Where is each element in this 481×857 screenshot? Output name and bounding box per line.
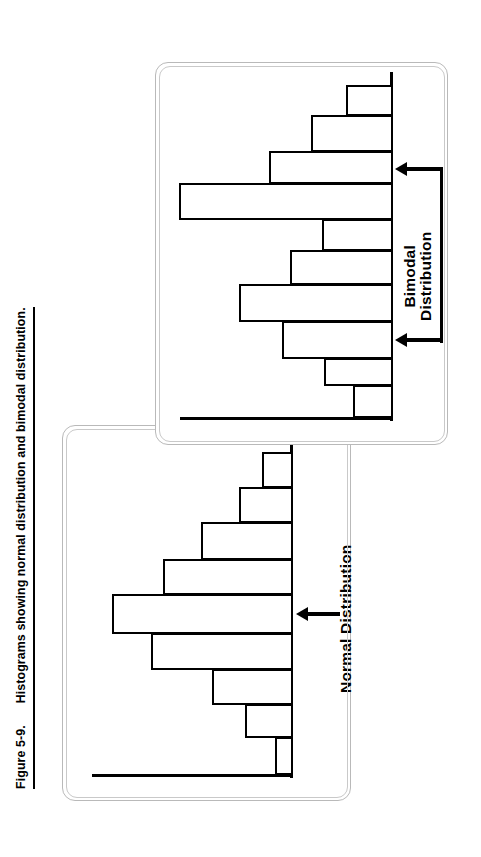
chart-normal-histogram: Normal Distribution [63, 426, 350, 800]
normal-arrow-shaft [306, 612, 340, 615]
panel-normal-distribution: Normal Distribution [62, 425, 351, 801]
bar-normal-8 [245, 704, 293, 738]
normal-distribution-label: Normal Distribution [338, 545, 354, 693]
bar-normal-6 [151, 633, 293, 670]
normal-arrow-head [296, 607, 308, 621]
bar-bimodal-6 [290, 250, 393, 285]
bimodal-arrow-lower-shaft [405, 338, 443, 341]
bimodal-arrow-lower-head [395, 333, 407, 347]
bimodal-label-line2: Distribution [417, 232, 434, 321]
normal-baseline-axis [92, 774, 293, 777]
bar-bimodal-3 [269, 151, 393, 184]
bar-normal-3 [201, 522, 293, 560]
figure-caption-rotor: Figure 5-9. Histograms showing normal di… [0, 69, 46, 789]
bar-bimodal-4 [179, 183, 393, 220]
bar-normal-1 [262, 452, 293, 488]
bar-bimodal-9 [324, 358, 393, 386]
bar-normal-5 [112, 594, 293, 634]
figure-number: Figure 5-9. [14, 725, 28, 789]
bar-normal-9 [275, 737, 293, 775]
bar-normal-4 [163, 559, 293, 595]
bar-bimodal-5 [322, 219, 393, 251]
figure-caption: Figure 5-9. Histograms showing normal di… [0, 0, 46, 857]
panel-bimodal-distribution: Bimodal Distribution [155, 62, 448, 445]
bar-bimodal-1 [346, 85, 393, 116]
bar-bimodal-2 [311, 115, 393, 152]
figure-caption-text: Histograms showing normal distribution a… [14, 307, 28, 703]
bimodal-arrow-upper-shaft [405, 167, 443, 170]
bimodal-label-line1: Bimodal [401, 245, 418, 308]
chart-bimodal-histogram: Bimodal Distribution [156, 63, 447, 444]
figure-caption-text-group: Figure 5-9. Histograms showing normal di… [11, 307, 35, 789]
bimodal-distribution-label: Bimodal Distribution [402, 232, 435, 321]
bar-bimodal-10 [353, 385, 393, 418]
bimodal-leader-line [440, 169, 443, 343]
bar-normal-7 [212, 669, 293, 705]
bar-normal-2 [239, 487, 293, 523]
bimodal-arrow-upper-head [395, 162, 407, 176]
bar-bimodal-8 [282, 321, 393, 359]
bar-bimodal-7 [239, 284, 393, 322]
